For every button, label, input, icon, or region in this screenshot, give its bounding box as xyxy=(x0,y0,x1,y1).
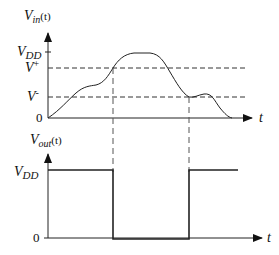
vplus-label: V+ xyxy=(25,58,40,75)
t-axis-label-top: t xyxy=(259,110,264,125)
vout-axis-label: Vout(t) xyxy=(30,132,62,149)
zero-label-bottom: 0 xyxy=(33,230,40,245)
t-axis-label-bottom: t xyxy=(267,230,272,245)
input-waveform-plot: Vin(t) VDD V+ V- 0 t xyxy=(17,8,264,125)
zero-label-top: 0 xyxy=(36,110,43,125)
output-waveform-plot: Vout(t) VDD 0 t xyxy=(14,132,272,245)
vin-axis-label: Vin(t) xyxy=(24,8,51,25)
vin-signal-curve xyxy=(48,53,232,118)
vout-square-wave xyxy=(48,170,238,239)
vminus-label: V- xyxy=(27,87,39,104)
schmitt-trigger-diagram: Vin(t) VDD V+ V- 0 t Vout(t) VDD 0 t xyxy=(0,0,279,255)
vdd-label-bottom: VDD xyxy=(14,164,39,181)
